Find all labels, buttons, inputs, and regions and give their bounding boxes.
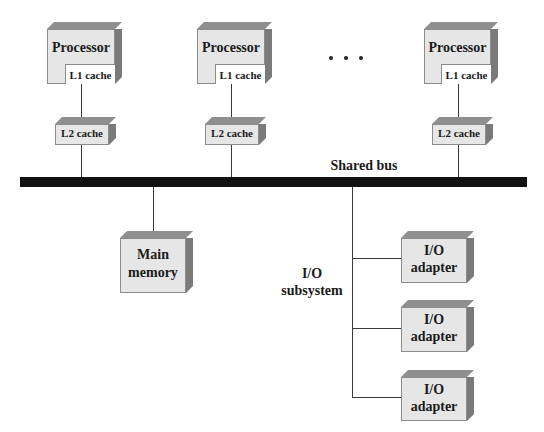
l2-cache-2-label: L2 cache [205,127,259,140]
ellipsis-dot-1 [329,56,333,60]
io-adapter-3-side-face [467,377,474,421]
processor-2-top-face [197,22,272,29]
io-adapter-3-top-face [401,370,474,377]
main-memory-side-face [186,238,193,293]
io-adapter-2: I/O adapter [401,307,467,352]
io-adapter-1-side-face [467,238,474,283]
main-memory-top-face [120,231,193,238]
connector-io-adapter-1 [352,258,401,259]
l1-cache-2: L1 cache [215,64,265,84]
shared-bus [20,177,527,187]
io-adapter-2-label-line2: adapter [401,329,467,345]
io-adapter-1-top-face [401,231,474,238]
processor-2-side-face [265,29,272,84]
processor-1-top-face [47,22,122,29]
l2-cache-3-label: L2 cache [432,127,486,140]
l2-cache-3-side-face [486,124,493,145]
l2-cache-2-top-face [205,117,266,124]
l2-cache-1: L2 cache [55,124,109,145]
processor-1-side-face [115,29,122,84]
connector-bus-memory [153,187,154,238]
processor-3-top-face [424,22,498,29]
io-adapter-3: I/O adapter [401,377,467,421]
io-adapter-1: I/O adapter [401,238,467,283]
main-memory: Main memory [120,238,186,293]
ellipsis-dot-2 [344,56,348,60]
io-subsystem-label-line1: I/O [272,266,352,282]
l1-cache-3: L1 cache [441,64,491,84]
processor-1-label: Processor [47,40,115,56]
processor-1: Processor L1 cache [47,29,115,84]
connector-io-adapter-2 [352,328,401,329]
io-adapter-2-top-face [401,300,474,307]
processor-2: Processor L1 cache [197,29,265,84]
io-adapter-3-label-line1: I/O [401,382,467,398]
processor-3-label: Processor [424,40,491,56]
io-trunk-line [352,187,353,398]
connector-l2-bus-1 [81,145,82,177]
processor-2-label: Processor [197,40,265,56]
main-memory-label-line1: Main [120,247,186,263]
l2-cache-2-side-face [259,124,266,145]
main-memory-label-line2: memory [120,265,186,281]
l2-cache-1-label: L2 cache [55,127,109,140]
io-adapter-1-label-line2: adapter [401,260,467,276]
processor-3-side-face [491,29,498,84]
ellipsis-dot-3 [359,56,363,60]
l2-cache-2: L2 cache [205,124,259,145]
io-subsystem-label-line2: subsystem [272,283,352,299]
shared-bus-label: Shared bus [314,158,414,174]
connector-l2-bus-3 [458,145,459,177]
l2-cache-1-side-face [109,124,116,145]
io-adapter-2-label-line1: I/O [401,312,467,328]
l2-cache-1-top-face [55,117,116,124]
io-adapter-1-label-line1: I/O [401,243,467,259]
l1-cache-1: L1 cache [65,64,115,84]
connector-l2-bus-2 [231,145,232,177]
io-adapter-2-side-face [467,307,474,352]
connector-io-adapter-3 [352,397,401,398]
processor-3: Processor L1 cache [424,29,491,84]
io-adapter-3-label-line2: adapter [401,399,467,415]
l2-cache-3: L2 cache [432,124,486,145]
l2-cache-3-top-face [432,117,493,124]
